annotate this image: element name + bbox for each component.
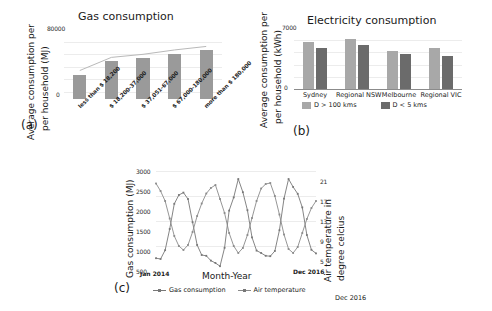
panel-c-gas-vs-temperature: Gas consumption (MJ) Air temperature in … <box>110 160 440 311</box>
marker-gas-consumption <box>288 178 290 180</box>
panel-b-category-0: Sydney <box>294 91 336 99</box>
marker-gas-consumption <box>315 253 317 255</box>
marker-air-temperature <box>306 218 308 220</box>
panel-c-ytick-right-13: 13 <box>320 218 327 225</box>
panel-c-start-date: Jan 2014 <box>140 270 169 277</box>
panel-c-ylabel-left: Gas consumption (MJ) <box>125 179 135 278</box>
marker-gas-consumption <box>301 207 303 209</box>
legend-item-d-gt-100: D > 100 kms <box>302 101 357 109</box>
marker-air-temperature <box>192 231 194 233</box>
marker-gas-consumption <box>256 250 258 252</box>
panel-c-ytick-right-9: 9 <box>320 238 324 245</box>
bar-melbourne-s1 <box>400 54 412 89</box>
marker-air-temperature <box>215 184 217 186</box>
legend-swatch-d-lt-5 <box>381 102 390 109</box>
panel-c-ylabel-right-line1: Air temperature in <box>323 199 333 282</box>
legend-item-gas-consumption: Gas consumption <box>153 286 226 294</box>
panel-a-ytick-bottom: 0 <box>56 91 60 98</box>
panel-a-plot-area <box>64 29 222 99</box>
marker-air-temperature <box>183 249 185 251</box>
marker-air-temperature <box>164 200 166 202</box>
panel-b-legend: D > 100 kms D < 5 kms <box>302 101 427 109</box>
panel-a-title: Gas consumption <box>78 10 174 23</box>
marker-gas-consumption <box>283 198 285 200</box>
bar-regional-vic-s1 <box>442 56 454 89</box>
bar-regional-vic-s0 <box>429 48 441 89</box>
marker-air-temperature <box>233 245 235 247</box>
panel-c-corner-note: Dec 2016 <box>335 294 366 302</box>
panel-c-end-date: Dec 2016 <box>293 268 324 275</box>
marker-air-temperature <box>251 217 253 219</box>
panel-c-ytick-right-5: 5 <box>320 258 324 265</box>
panel-a-letter: (a) <box>21 118 38 132</box>
bar-sydney-s0 <box>303 42 315 89</box>
marker-gas-consumption <box>183 192 185 194</box>
bar-sydney-s1 <box>316 48 328 89</box>
marker-air-temperature <box>256 200 258 202</box>
marker-gas-consumption <box>242 191 244 193</box>
marker-gas-consumption <box>205 255 207 257</box>
bar-regional-nsw-s1 <box>358 45 370 89</box>
line-air-temperature <box>156 183 316 253</box>
panel-c-ytick-left-3000: 3000 <box>136 168 150 175</box>
marker-air-temperature <box>242 247 244 249</box>
marker-air-temperature <box>201 203 203 205</box>
gridline <box>294 40 462 41</box>
panel-a-gas-consumption: Gas consumption Average consumption per … <box>0 0 246 160</box>
panel-b-title: Electricity consumption <box>307 14 436 27</box>
panel-c-ytick-left-1000: 1000 <box>136 248 150 255</box>
marker-gas-consumption <box>247 209 249 211</box>
marker-gas-consumption <box>297 193 299 195</box>
panel-a-ylabel-line2: per household (MJ) <box>40 46 50 131</box>
marker-gas-consumption <box>164 249 166 251</box>
panel-c-ytick-left-2500: 2500 <box>136 188 150 195</box>
panel-c-ytick-right-17: 17 <box>320 198 327 205</box>
marker-gas-consumption <box>215 262 217 264</box>
marker-air-temperature <box>265 183 267 185</box>
marker-gas-consumption <box>306 234 308 236</box>
marker-gas-consumption <box>196 244 198 246</box>
line-gas-consumption <box>156 179 316 266</box>
panel-a-ytick-top: 80000 <box>47 25 65 32</box>
marker-air-temperature <box>279 214 281 216</box>
marker-gas-consumption <box>201 254 203 256</box>
marker-air-temperature <box>301 232 303 234</box>
legend-line-air-temperature <box>238 290 251 291</box>
marker-air-temperature <box>247 234 249 236</box>
marker-air-temperature <box>228 232 230 234</box>
marker-gas-consumption <box>265 255 267 257</box>
panel-b-category-3: Regional VIC <box>420 91 462 99</box>
marker-air-temperature <box>210 187 212 189</box>
marker-air-temperature <box>205 193 207 195</box>
marker-gas-consumption <box>178 194 180 196</box>
legend-item-d-lt-5: D < 5 kms <box>381 101 427 109</box>
legend-item-air-temperature: Air temperature <box>238 286 306 294</box>
panel-c-ytick-left-1500: 1500 <box>136 228 150 235</box>
marker-air-temperature <box>311 207 313 209</box>
bar-melbourne-s0 <box>387 51 399 89</box>
panel-c-plot-area <box>156 171 316 271</box>
panel-b-category-1: Regional NSW <box>336 91 378 99</box>
marker-gas-consumption <box>192 221 194 223</box>
legend-swatch-d-gt-100 <box>302 102 311 109</box>
marker-gas-consumption <box>251 237 253 239</box>
legend-label-d-gt-100: D > 100 kms <box>314 101 357 109</box>
bar-regional-nsw-s0 <box>345 39 357 89</box>
marker-air-temperature <box>237 252 239 254</box>
marker-air-temperature <box>315 200 317 202</box>
marker-gas-consumption <box>269 255 271 257</box>
marker-gas-consumption <box>233 197 235 199</box>
marker-gas-consumption <box>274 250 276 252</box>
marker-gas-consumption <box>237 178 239 180</box>
marker-gas-consumption <box>260 252 262 254</box>
panel-b-ylabel-line2: per household (kWh) <box>273 30 283 124</box>
marker-gas-consumption <box>187 198 189 200</box>
panel-b-ylabel-line1: Average consumption per <box>259 12 269 128</box>
marker-gas-consumption <box>219 265 221 267</box>
marker-gas-consumption <box>173 203 175 205</box>
marker-air-temperature <box>274 195 276 197</box>
marker-gas-consumption <box>160 258 162 260</box>
marker-air-temperature <box>187 244 189 246</box>
marker-air-temperature <box>283 234 285 236</box>
marker-air-temperature <box>219 198 221 200</box>
